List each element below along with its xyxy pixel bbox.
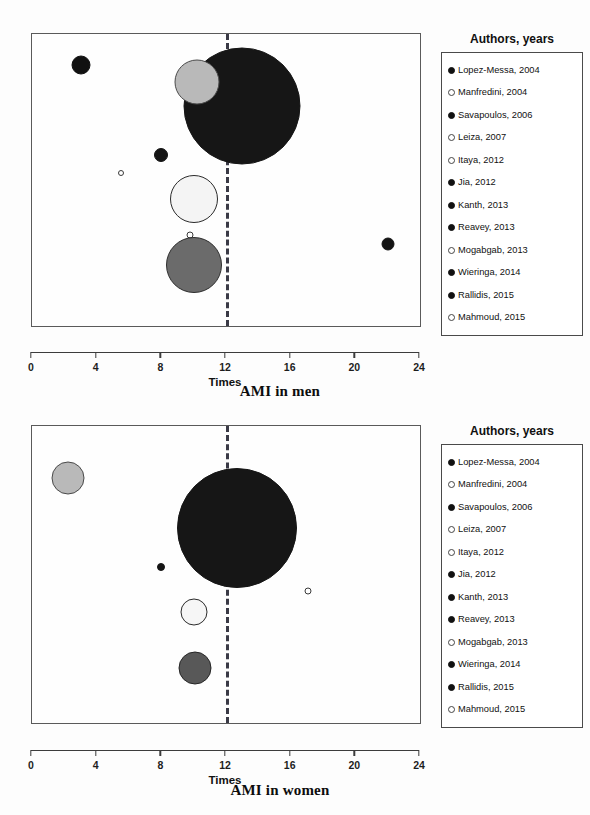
legend-item-label: Leiza, 2007 [458,133,506,142]
legend-item-label: Mogabgab, 2013 [458,638,528,647]
x-tick-12 [224,750,225,756]
x-tick-label-20: 20 [348,361,360,373]
x-tick-label-0: 0 [28,361,34,373]
x-tick-24 [418,352,419,358]
legend-item-reavey-2013[interactable]: Reavey, 2013 [442,217,582,240]
legend-marker-hollow-icon [448,706,455,713]
legend-item-mahmoud-2015[interactable]: Mahmoud, 2015 [442,699,582,722]
legend-item-label: Wieringa, 2014 [458,660,521,669]
legend-item-label: Lopez-Messa, 2004 [458,66,540,75]
legend-item-lopez-messa-2004[interactable]: Lopez-Messa, 2004 [442,59,582,82]
legend-item-label: Itaya, 2012 [458,156,504,165]
legend-marker-hollow-icon [448,157,455,164]
legend-item-itaya-2012[interactable]: Itaya, 2012 [442,541,582,564]
legend-item-mogabgab-2013[interactable]: Mogabgab, 2013 [442,239,582,262]
legend-item-label: Kanth, 2013 [458,201,508,210]
x-tick-0 [30,352,31,358]
x-tick-20 [354,352,355,358]
x-tick-label-8: 8 [157,361,163,373]
legend-title-women: Authors, years [438,424,586,438]
legend-box-men: Lopez-Messa, 2004Manfredini, 2004Savapou… [441,52,583,336]
x-tick-0 [30,750,31,756]
legend-item-savapoulos-2006[interactable]: Savapoulos, 2006 [442,104,582,127]
legend-item-jia-2012[interactable]: Jia, 2012 [442,564,582,587]
legend-item-manfredini-2004[interactable]: Manfredini, 2004 [442,474,582,497]
legend-item-label: Rallidis, 2015 [458,683,514,692]
x-tick-label-16: 16 [284,361,296,373]
panel-ami-in-women: 04812162024 Times Authors, years Lopez-M… [0,400,590,800]
panel-ami-in-men: 04812162024 Times Authors, years Lopez-M… [0,0,590,400]
bubble-leiza-2007 [180,598,207,625]
legend-item-savapoulos-2006[interactable]: Savapoulos, 2006 [442,496,582,519]
legend-item-jia-2012[interactable]: Jia, 2012 [442,172,582,195]
x-axis-men: 04812162024 [31,352,419,353]
x-tick-label-16: 16 [284,759,296,771]
legend-item-reavey-2013[interactable]: Reavey, 2013 [442,609,582,632]
legend-marker-filled-icon [448,179,455,186]
bubble-jia-2012 [166,237,222,293]
x-tick-label-8: 8 [157,759,163,771]
legend-title-men: Authors, years [438,32,586,46]
bubble-savapoulos-2006 [157,563,165,571]
legend-item-label: Lopez-Messa, 2004 [458,458,540,467]
plot-area-women [31,425,421,724]
legend-marker-hollow-icon [448,549,455,556]
x-tick-12 [224,352,225,358]
legend-item-manfredini-2004[interactable]: Manfredini, 2004 [442,82,582,105]
legend-marker-filled-icon [448,684,455,691]
bubble-lopez-messa-2004 [381,238,394,251]
bubble-manfredini-2004 [118,170,124,176]
legend-item-label: Jia, 2012 [458,178,496,187]
legend-marker-filled-icon [448,594,455,601]
legend-marker-hollow-icon [448,481,455,488]
legend-marker-hollow-icon [448,526,455,533]
legend-item-mahmoud-2015[interactable]: Mahmoud, 2015 [442,307,582,330]
legend-item-label: Jia, 2012 [458,570,496,579]
x-tick-label-0: 0 [28,759,34,771]
legend-item-kanth-2013[interactable]: Kanth, 2013 [442,194,582,217]
x-tick-label-12: 12 [219,361,231,373]
legend-item-label: Rallidis, 2015 [458,291,514,300]
legend-box-women: Lopez-Messa, 2004Manfredini, 2004Savapou… [441,444,583,728]
x-tick-16 [289,352,290,358]
legend-item-wieringa-2014[interactable]: Wieringa, 2014 [442,654,582,677]
panel-caption-women: AMI in women [0,782,560,799]
legend-item-rallidis-2015[interactable]: Rallidis, 2015 [442,284,582,307]
legend-item-label: Mogabgab, 2013 [458,246,528,255]
legend-item-label: Reavey, 2013 [458,223,515,232]
x-tick-16 [289,750,290,756]
legend-item-label: Itaya, 2012 [458,548,504,557]
legend-item-label: Leiza, 2007 [458,525,506,534]
bubble-mogabgab-2013 [51,461,84,494]
legend-marker-filled-icon [448,67,455,74]
x-tick-20 [354,750,355,756]
x-tick-label-24: 24 [413,361,425,373]
legend-item-label: Reavey, 2013 [458,615,515,624]
legend-item-label: Kanth, 2013 [458,593,508,602]
bubble-mahmoud-2015 [305,587,312,594]
legend-item-itaya-2012[interactable]: Itaya, 2012 [442,149,582,172]
panel-caption-men: AMI in men [0,383,560,400]
legend-item-leiza-2007[interactable]: Leiza, 2007 [442,127,582,150]
legend-item-label: Mahmoud, 2015 [458,313,525,322]
legend-item-kanth-2013[interactable]: Kanth, 2013 [442,586,582,609]
legend-item-leiza-2007[interactable]: Leiza, 2007 [442,519,582,542]
x-tick-8 [160,352,161,358]
legend-item-label: Manfredini, 2004 [458,480,527,489]
x-axis-women: 04812162024 [31,750,419,751]
legend-marker-hollow-icon [448,134,455,141]
legend-marker-filled-icon [448,292,455,299]
legend-item-label: Savapoulos, 2006 [458,111,532,120]
legend-item-label: Mahmoud, 2015 [458,705,525,714]
legend-marker-hollow-icon [448,314,455,321]
plot-area-men [31,33,421,327]
legend-item-mogabgab-2013[interactable]: Mogabgab, 2013 [442,631,582,654]
x-tick-label-12: 12 [219,759,231,771]
legend-item-rallidis-2015[interactable]: Rallidis, 2015 [442,676,582,699]
legend-marker-filled-icon [448,661,455,668]
legend-item-label: Wieringa, 2014 [458,268,521,277]
x-tick-label-4: 4 [93,759,99,771]
x-tick-8 [160,750,161,756]
legend-item-wieringa-2014[interactable]: Wieringa, 2014 [442,262,582,285]
legend-item-lopez-messa-2004[interactable]: Lopez-Messa, 2004 [442,451,582,474]
